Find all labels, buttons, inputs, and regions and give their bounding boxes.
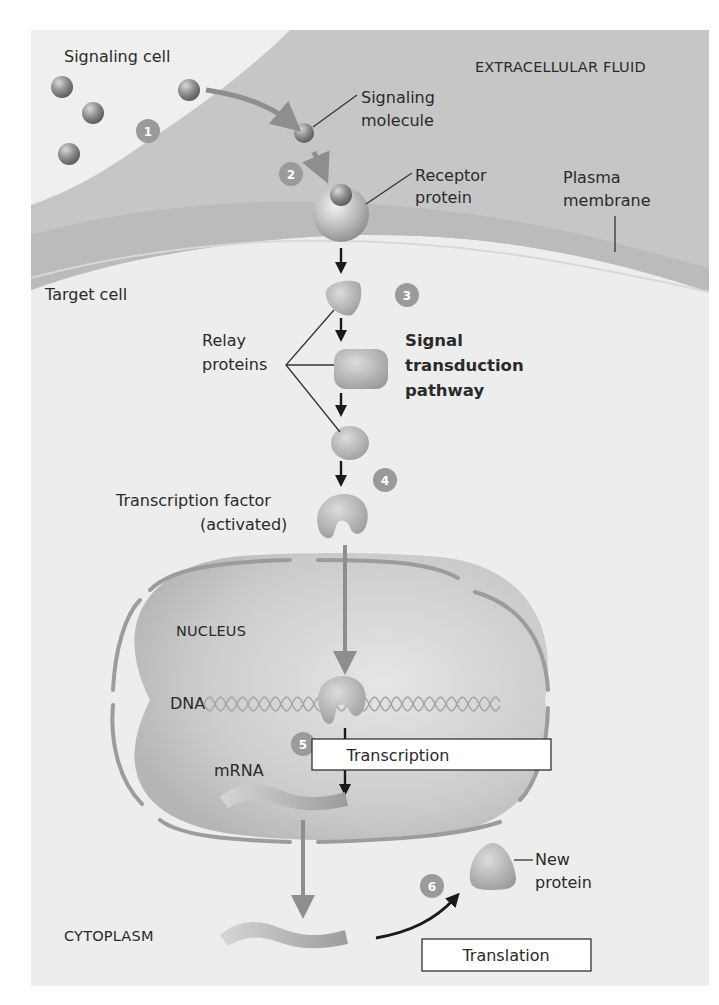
signaling-molecule-label-1: Signaling — [361, 88, 435, 107]
step-badge-4: 4 — [373, 468, 397, 492]
relay-proteins-label-2: proteins — [202, 355, 267, 374]
cytoplasm-label: CYTOPLASM — [64, 928, 154, 944]
step-badge-1: 1 — [136, 119, 160, 143]
transcription-box: Transcription — [312, 739, 551, 770]
plasma-membrane-label-2: membrane — [563, 191, 651, 210]
signaling-molecule — [51, 76, 73, 98]
svg-text:6: 6 — [428, 880, 436, 894]
new-protein-label-2: protein — [535, 873, 592, 892]
svg-text:Translation: Translation — [461, 946, 549, 965]
signaling-molecule-label-2: molecule — [361, 111, 434, 130]
svg-text:Transcription: Transcription — [346, 746, 450, 765]
extracellular-fluid-label: EXTRACELLULAR FLUID — [475, 59, 646, 75]
svg-text:2: 2 — [287, 168, 295, 182]
new-protein-label-1: New — [535, 850, 570, 869]
target-cell-label: Target cell — [44, 285, 127, 304]
signaling-cell-label: Signaling cell — [64, 47, 171, 66]
step-badge-2: 2 — [279, 162, 303, 186]
relay-proteins-label-1: Relay — [202, 331, 246, 350]
svg-text:1: 1 — [144, 125, 152, 139]
step-badge-3: 3 — [395, 283, 419, 307]
relay-protein-2 — [334, 349, 388, 389]
signal-transduction-label-3: pathway — [405, 381, 484, 400]
nucleus-label: NUCLEUS — [176, 623, 246, 639]
signaling-molecule-bound — [294, 123, 314, 143]
translation-box: Translation — [422, 939, 591, 971]
bound-ligand — [330, 184, 352, 206]
dna-label: DNA — [170, 694, 205, 713]
receptor-protein-label-2: protein — [415, 188, 472, 207]
signal-transduction-label-1: Signal — [405, 331, 463, 350]
signal-transduction-label-2: transduction — [405, 356, 524, 375]
signaling-molecule — [58, 143, 80, 165]
receptor-protein-label-1: Receptor — [415, 166, 487, 185]
svg-text:4: 4 — [381, 474, 389, 488]
transcription-factor-label-2: (activated) — [200, 515, 287, 534]
signaling-molecule — [178, 79, 200, 101]
mrna-label: mRNA — [214, 761, 264, 780]
svg-text:3: 3 — [403, 289, 411, 303]
transcription-factor-label-1: Transcription factor — [115, 491, 271, 510]
step-badge-6: 6 — [420, 874, 444, 898]
plasma-membrane-label-1: Plasma — [563, 168, 621, 187]
relay-protein-3 — [331, 426, 369, 460]
svg-text:5: 5 — [299, 738, 307, 752]
cell-signaling-diagram: Signaling cell EXTRACELLULAR FLUID Signa… — [0, 0, 719, 1005]
signaling-molecule — [82, 102, 104, 124]
